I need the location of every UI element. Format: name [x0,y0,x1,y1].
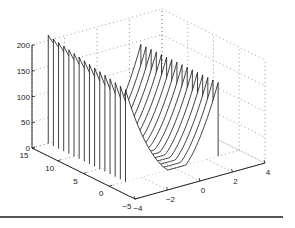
svg-text:10: 10 [45,164,54,173]
svg-text:100: 100 [17,93,31,102]
data-curves [48,35,218,182]
svg-text:2: 2 [233,177,238,186]
svg-text:5: 5 [73,177,78,186]
svg-text:150: 150 [17,67,31,76]
svg-text:4: 4 [266,168,271,177]
svg-text:−5: −5 [122,202,132,211]
svg-text:−4: −4 [133,204,143,213]
svg-text:50: 50 [21,118,30,127]
svg-text:15: 15 [20,151,29,160]
svg-text:0: 0 [99,189,104,198]
svg-text:0: 0 [201,186,206,195]
svg-text:200: 200 [17,41,31,50]
bottom-rule [0,216,283,218]
waterfall-3d-plot: 050100150200−5051015−4−2024 [0,0,295,228]
svg-text:−2: −2 [166,195,176,204]
